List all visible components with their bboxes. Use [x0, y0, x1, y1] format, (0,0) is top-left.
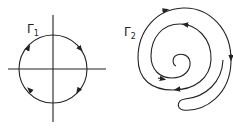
- gamma2-subscript: 2: [131, 32, 136, 41]
- arrow-icon: [162, 10, 166, 11]
- gamma1-symbol: Γ: [27, 22, 34, 36]
- gamma1-contour: [8, 15, 106, 122]
- arrow-icon: [78, 46, 81, 49]
- gamma1-subscript: 1: [34, 29, 39, 38]
- arrow-icon: [27, 48, 29, 51]
- arrow-icon: [158, 78, 163, 79]
- gamma2-label: Γ2: [124, 25, 136, 41]
- arrow-icon: [185, 25, 189, 26]
- arrow-icon: [177, 89, 181, 90]
- arrow-icon: [30, 90, 33, 93]
- contour-diagram: [0, 0, 233, 137]
- gamma2-symbol: Γ: [124, 25, 131, 39]
- spiral-tail: [178, 60, 223, 110]
- gamma2-contour: [138, 8, 231, 110]
- gamma1-label: Γ1: [27, 22, 39, 38]
